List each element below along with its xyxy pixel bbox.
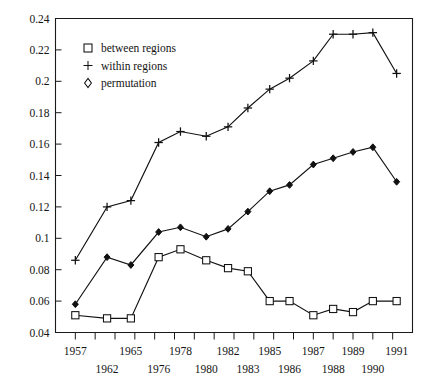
marker-square xyxy=(127,315,134,322)
marker-square xyxy=(369,298,376,305)
x-tick-label: 1989 xyxy=(342,345,365,357)
x-tick-label: 1991 xyxy=(385,345,408,357)
y-tick-label: 0.14 xyxy=(29,170,49,182)
x-tick-label: 1957 xyxy=(64,345,87,357)
legend-label: permutation xyxy=(101,77,157,90)
y-tick-label: 0.16 xyxy=(29,138,49,150)
marker-square xyxy=(103,315,110,322)
x-tick-label: 1987 xyxy=(302,345,325,357)
x-tick-label: 1990 xyxy=(361,363,384,375)
x-tick-label: 1986 xyxy=(278,363,301,375)
marker-square xyxy=(177,246,184,253)
y-tick-label: 0.1 xyxy=(35,232,50,244)
marker-square xyxy=(224,265,231,272)
marker-square xyxy=(72,312,79,319)
marker-square xyxy=(393,298,400,305)
marker-square xyxy=(310,312,317,319)
chart-container: 0.240.220.20.180.160.140.120.10.080.060.… xyxy=(0,0,427,387)
x-tick-label: 1976 xyxy=(147,363,170,375)
y-tick-label: 0.12 xyxy=(29,201,49,213)
y-tick-label: 0.18 xyxy=(29,107,49,119)
y-tick-label: 0.06 xyxy=(29,295,49,307)
y-tick-label: 0.22 xyxy=(29,44,49,56)
marker-square xyxy=(286,298,293,305)
chart-background xyxy=(0,0,427,387)
x-tick-label: 1988 xyxy=(322,363,345,375)
x-tick-label: 1965 xyxy=(119,345,142,357)
marker-square xyxy=(349,308,356,315)
legend-label: between regions xyxy=(101,42,177,55)
y-tick-label: 0.2 xyxy=(35,75,50,87)
marker-square xyxy=(203,257,210,264)
y-tick-label: 0.04 xyxy=(29,327,49,339)
legend-label: within regions xyxy=(101,60,168,73)
marker-square xyxy=(266,298,273,305)
x-tick-label: 1978 xyxy=(169,345,192,357)
x-tick-label: 1985 xyxy=(258,345,281,357)
x-tick-label: 1982 xyxy=(217,345,240,357)
y-tick-label: 0.24 xyxy=(29,13,49,25)
x-tick-label: 1962 xyxy=(96,363,119,375)
y-tick-label: 0.08 xyxy=(29,264,49,276)
x-tick-label: 1980 xyxy=(195,363,218,375)
x-tick-label: 1983 xyxy=(236,363,259,375)
marker-square xyxy=(155,254,162,261)
line-chart: 0.240.220.20.180.160.140.120.10.080.060.… xyxy=(0,0,427,387)
marker-square xyxy=(330,305,337,312)
marker-square xyxy=(244,268,251,275)
